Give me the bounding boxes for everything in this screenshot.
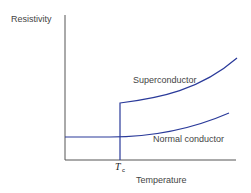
x-axis-label: Temperature <box>136 175 187 185</box>
superconductor-curve <box>120 58 237 160</box>
normal-conductor-label: Normal conductor <box>153 134 224 144</box>
critical-temp-label: T <box>115 161 122 172</box>
critical-temp-subscript: c <box>122 167 125 173</box>
y-axis-label: Resistivity <box>11 14 52 24</box>
resistivity-diagram: Resistivity Temperature Superconductor N… <box>0 0 251 193</box>
superconductor-label: Superconductor <box>133 75 197 85</box>
